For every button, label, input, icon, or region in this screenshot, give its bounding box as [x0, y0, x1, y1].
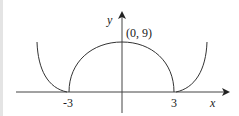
peak-label: (0, 9) [126, 26, 152, 40]
y-axis-label: y [106, 13, 113, 27]
x-pos-tick-label: 3 [171, 96, 177, 110]
right-branch-curve [176, 42, 207, 92]
left-branch-curve [37, 42, 67, 92]
x-neg-tick-label: -3 [63, 96, 73, 110]
graph-figure: y (0, 9) -3 3 x [0, 0, 239, 116]
x-axis-label: x [209, 96, 216, 110]
function-graph: y (0, 9) -3 3 x [0, 0, 239, 116]
